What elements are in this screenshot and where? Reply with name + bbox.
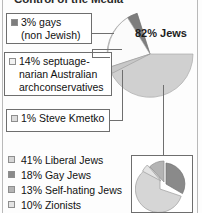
legend-label-liberal-jews: 41% Liberal Jews	[21, 154, 103, 166]
inset-slice-gay-jews	[166, 163, 185, 194]
callout-gays-text-1: 3% gays	[21, 16, 61, 29]
callout-kmetko: 1% Steve Kmetko	[6, 109, 110, 132]
legend-label-zionists: 10% Zionists	[21, 199, 81, 211]
legend-label-gay-jews: 18% Gay Jews	[21, 169, 91, 181]
leader-line-kmetko-v	[122, 70, 123, 121]
callout-gays-text-2: (non Jewish)	[21, 29, 81, 42]
swatch-zionists	[8, 201, 15, 208]
callout-septuagenarian: 14% septuage- narian Australian archcons…	[4, 52, 112, 96]
callout-gays-line-1: 3% gays	[11, 16, 88, 29]
leader-line-septa-v	[92, 49, 93, 57]
inset-chart-box	[131, 155, 193, 213]
callout-kmetko-text-1: 1% Steve Kmetko	[21, 112, 104, 125]
swatch-septuagenarian	[9, 58, 16, 65]
legend-label-self-hating-jews: 13% Self-hating Jews	[21, 184, 122, 196]
swatch-self-hating-jews	[8, 186, 15, 193]
callout-gays: 3% gays (non Jewish)	[6, 13, 92, 44]
callout-gays-line-2: (non Jewish)	[11, 29, 88, 42]
legend-item-self-hating-jews: 13% Self-hating Jews	[8, 182, 132, 197]
legend-item-liberal-jews: 41% Liberal Jews	[8, 152, 132, 167]
frame-border-right	[197, 0, 198, 213]
legend-item-gay-jews: 18% Gay Jews	[8, 167, 132, 182]
frame-border-left	[2, 0, 3, 213]
swatch-liberal-jews	[8, 156, 15, 163]
chart-figure: Control of the Media 82% Jews 3% gays (n…	[0, 0, 202, 213]
swatch-kmetko	[11, 115, 18, 122]
leader-line-septa-h2	[92, 57, 110, 58]
legend-item-zionists: 10% Zionists	[8, 197, 132, 212]
leader-line-inset	[163, 85, 164, 155]
chart-title: Control of the Media	[14, 0, 123, 5]
pie-label-jews: 82% Jews	[135, 27, 187, 39]
swatch-gay-jews	[8, 171, 15, 178]
swatch-gays	[11, 19, 18, 26]
callout-septuagenarian-line-3: archconservatives	[9, 81, 108, 94]
inset-pie-chart	[135, 158, 191, 212]
leader-line-gays	[92, 33, 114, 34]
callout-septuagenarian-text-3: archconservatives	[19, 81, 104, 94]
main-pie-chart	[105, 9, 195, 99]
leader-line-septa-h1	[92, 49, 122, 50]
callout-kmetko-line-1: 1% Steve Kmetko	[11, 112, 106, 125]
callout-septuagenarian-line-2: narian Australian	[9, 68, 108, 81]
callout-septuagenarian-text-2: narian Australian	[19, 68, 97, 81]
legend: 41% Liberal Jews 18% Gay Jews 13% Self-h…	[8, 152, 132, 212]
callout-septuagenarian-text-1: 14% septuage-	[19, 55, 90, 68]
